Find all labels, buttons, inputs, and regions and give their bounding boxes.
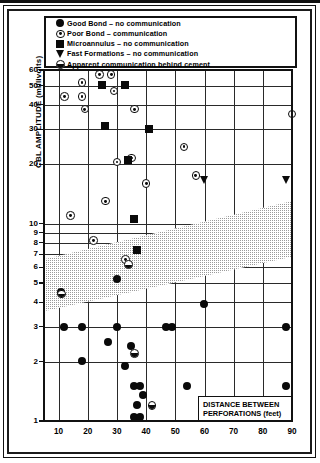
legend-symbol [55, 19, 67, 28]
marker-good-bond-icon [282, 382, 290, 390]
marker-poor-bond-icon [130, 105, 139, 114]
legend-item: Poor Bond – communication [55, 29, 295, 39]
plot-area [44, 70, 292, 421]
marker-good-bond-icon [104, 338, 112, 346]
top-border-bar [0, 0, 320, 3]
marker-apparent-communication-icon [130, 349, 139, 358]
y-tick-label: 3 [16, 323, 38, 331]
data-point [192, 171, 201, 180]
legend-label: Poor Bond – communication [67, 29, 167, 38]
chart-legend: Good Bond – no communicationPoor Bond – … [44, 16, 297, 68]
x-tick-label: 40 [136, 428, 156, 436]
data-point [95, 70, 104, 79]
x-tick-label: 60 [195, 428, 215, 436]
data-point [200, 300, 208, 308]
data-point [78, 78, 87, 87]
marker-good-bond-icon [139, 391, 147, 399]
legend-symbol [55, 49, 67, 58]
marker-apparent-communication-icon [124, 260, 133, 269]
marker-microannulus-icon [133, 246, 141, 254]
data-point [110, 87, 119, 96]
marker-microannulus-icon [101, 122, 109, 130]
marker-poor-bond-icon [95, 70, 104, 79]
transition-band [44, 70, 292, 421]
marker-poor-bond-icon [56, 30, 65, 39]
legend-symbol [55, 39, 67, 48]
legend-label: Microannulus – no communication [67, 39, 189, 48]
data-point [124, 156, 132, 164]
data-point [282, 176, 290, 184]
marker-poor-bond-icon [89, 236, 98, 245]
data-point [81, 105, 90, 114]
x-axis-label-line1: DISTANCE BETWEEN [203, 400, 291, 409]
data-point [121, 362, 129, 370]
data-point [133, 246, 141, 254]
data-point [78, 357, 86, 365]
data-point [57, 290, 66, 299]
marker-good-bond-icon [121, 362, 129, 370]
legend-symbol [55, 60, 67, 69]
legend-item: Good Bond – no communication [55, 19, 295, 29]
marker-apparent-communication-icon [56, 60, 65, 69]
marker-apparent-communication-icon [57, 290, 66, 299]
x-axis-label-line2: PERFORATIONS (feet) [203, 409, 291, 418]
marker-poor-bond-icon [113, 158, 122, 167]
marker-microannulus-icon [121, 81, 129, 89]
marker-poor-bond-icon [110, 87, 119, 96]
data-point [130, 349, 139, 358]
x-tick-label: 30 [107, 428, 127, 436]
marker-good-bond-icon [200, 300, 208, 308]
data-point [101, 122, 109, 130]
data-point [142, 179, 151, 188]
marker-fast-formation-icon [200, 176, 208, 184]
data-point [168, 323, 176, 331]
legend-item: Fast Formations – no communication [55, 49, 295, 59]
data-point [130, 215, 138, 223]
data-point [148, 401, 157, 410]
y-axis-label: CBL AMPLITUDE (millivolts) [34, 56, 43, 168]
data-point [133, 401, 141, 409]
marker-good-bond-icon [136, 382, 144, 390]
plot-border-left [43, 70, 45, 422]
plot-border-right [291, 70, 293, 422]
y-tick-label: 10 [16, 220, 38, 228]
y-tick-label: 5 [16, 279, 38, 287]
marker-good-bond-icon [56, 19, 64, 27]
marker-microannulus-icon [98, 81, 106, 89]
data-point [145, 125, 153, 133]
y-tick-label: 1 [16, 417, 38, 425]
legend-label: Fast Formations – no communication [67, 49, 198, 58]
marker-poor-bond-icon [180, 143, 189, 152]
marker-good-bond-icon [78, 357, 86, 365]
marker-poor-bond-icon [192, 171, 201, 180]
marker-poor-bond-icon [81, 105, 90, 114]
x-axis-label-box: DISTANCE BETWEEN PERFORATIONS (feet) [198, 396, 291, 420]
marker-good-bond-icon [60, 323, 68, 331]
marker-poor-bond-icon [107, 70, 116, 79]
data-point [121, 81, 129, 89]
y-tick-label: 6 [16, 263, 38, 271]
marker-good-bond-icon [282, 323, 290, 331]
legend-item: Apparent communication behind cement [55, 59, 295, 69]
marker-apparent-communication-icon [148, 401, 157, 410]
x-tick-label: 80 [253, 428, 273, 436]
data-point [104, 338, 112, 346]
data-point [180, 143, 189, 152]
x-tick-label: 70 [224, 428, 244, 436]
marker-good-bond-icon [183, 382, 191, 390]
y-tick-label: 7 [16, 250, 38, 258]
data-point [282, 382, 290, 390]
marker-good-bond-icon [78, 323, 86, 331]
data-point [136, 382, 144, 390]
x-tick-label: 90 [282, 428, 302, 436]
marker-poor-bond-icon [78, 78, 87, 87]
data-point [107, 70, 116, 79]
data-point [78, 92, 87, 101]
data-point [101, 197, 110, 206]
data-point [113, 275, 121, 283]
marker-poor-bond-icon [142, 179, 151, 188]
legend-label: Good Bond – no communication [67, 19, 181, 28]
data-point [89, 236, 98, 245]
data-point [183, 382, 191, 390]
marker-microannulus-icon [56, 40, 64, 48]
